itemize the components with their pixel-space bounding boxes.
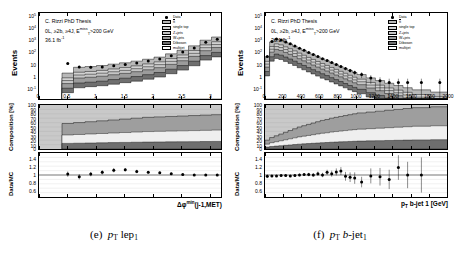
data-point	[147, 60, 150, 63]
data-point	[388, 81, 391, 84]
x-tick-label: 2.5	[178, 93, 185, 99]
caption-f: (f) pT b-jet1	[228, 228, 452, 242]
legend-entry-zjets: Z+jets	[162, 31, 218, 36]
ratio-point	[135, 170, 138, 173]
x-tick	[411, 153, 412, 156]
legend-swatch-icon	[162, 46, 171, 50]
x-tick	[320, 194, 321, 197]
legend-swatch-icon	[162, 20, 171, 24]
data-point	[353, 71, 356, 74]
x-tick-label: 2	[152, 93, 155, 99]
data-point	[124, 63, 127, 66]
x-tick-label: 600	[315, 93, 323, 99]
ratio-panel-left	[38, 152, 222, 198]
data-point	[406, 81, 409, 84]
y-ticklabels-composition-left: 100 90 80 70 60 50 40 30 20 10 0	[2, 104, 36, 150]
caption-e: (e) pT lep1	[2, 228, 226, 242]
x-tick	[283, 194, 284, 197]
legend-entry-tt: tt	[162, 20, 218, 25]
y-ticklabels-ratio-right: 1.4 1.2 1 0.8 0.6	[228, 152, 262, 198]
ratio-point	[158, 171, 161, 174]
x-tick	[356, 13, 357, 16]
x-tick	[181, 194, 182, 197]
ratio-point	[353, 177, 356, 180]
annotation-selection-right: 0L, ≥2b, ≥4J, EmissT>200 GeV	[271, 27, 339, 36]
x-tick	[153, 105, 154, 108]
x-tick-label: 0	[263, 93, 266, 99]
x-tick	[210, 146, 211, 149]
x-tick	[96, 13, 97, 16]
x-ticklabels-main-left: 00.511.522.53	[38, 93, 222, 102]
legend-entry-zjets: Z+jets	[388, 31, 444, 36]
x-tick	[392, 153, 393, 156]
x-tick	[374, 13, 375, 16]
legend-label: tt	[399, 20, 401, 25]
legend-label: Data	[173, 15, 181, 20]
ratio-point	[293, 174, 296, 177]
ratio-point	[124, 168, 127, 171]
x-tick	[67, 146, 68, 149]
legend-marker-data-icon	[388, 15, 397, 19]
ratio-point	[266, 175, 269, 178]
legend-entry-diboson: Diboson	[162, 41, 218, 46]
legend-label: Diboson	[399, 41, 412, 46]
x-tick	[301, 13, 302, 16]
data-point	[339, 65, 342, 68]
legend-label: W+jets	[173, 36, 184, 41]
ratio-point	[316, 172, 319, 175]
data-point	[66, 62, 69, 65]
ratio-point	[193, 174, 196, 177]
composition-svg-left	[39, 105, 221, 149]
x-tick	[124, 194, 125, 197]
x-tick-label: 200	[278, 93, 286, 99]
x-tick	[210, 105, 211, 108]
x-tick-label: 0.5	[63, 93, 70, 99]
x-tick	[411, 194, 412, 197]
x-tick-label: 1	[94, 93, 97, 99]
x-axis-title-left: Δφmin(j-1,MET)	[177, 200, 222, 208]
data-point	[326, 59, 329, 62]
x-tick	[265, 194, 266, 197]
x-axis-title-right: pT b-jet 1 [GeV]	[401, 200, 448, 209]
data-point	[360, 73, 363, 76]
data-point	[135, 61, 138, 64]
ratio-point	[335, 170, 338, 173]
ratio-point	[216, 174, 219, 177]
x-tick	[392, 146, 393, 149]
ratio-point	[284, 174, 287, 177]
ratio-point	[101, 171, 104, 174]
x-tick	[320, 105, 321, 108]
legend-swatch-icon	[162, 36, 171, 40]
ratio-point	[360, 181, 363, 184]
x-tick	[67, 105, 68, 108]
x-tick	[39, 13, 40, 16]
data-point	[349, 69, 352, 72]
x-tick-label: 800	[333, 93, 341, 99]
x-tick	[374, 153, 375, 156]
data-point	[158, 57, 161, 60]
x-tick	[124, 13, 125, 16]
x-tick	[181, 146, 182, 149]
legend-label: single top	[399, 25, 414, 30]
x-tick	[411, 146, 412, 149]
x-tick	[181, 153, 182, 156]
x-tick	[338, 194, 339, 197]
y-ticklabels-main-left: 105 104 103 102 10 1 10-1	[2, 12, 36, 100]
x-tick	[153, 146, 154, 149]
legend-right: Datattsingle topZ+jetsW+jetsDibosonmulti…	[388, 15, 444, 51]
x-tick	[429, 146, 430, 149]
ratio-point	[326, 171, 329, 174]
ratio-point	[66, 173, 69, 176]
ratio-point	[170, 172, 173, 175]
ratio-point	[388, 178, 391, 181]
x-tick	[124, 105, 125, 108]
legend-label: Z+jets	[173, 31, 183, 36]
data-point	[335, 63, 338, 66]
x-tick	[210, 153, 211, 156]
data-point	[438, 81, 441, 84]
legend-entry-tt: tt	[388, 20, 444, 25]
legend-swatch-icon	[388, 26, 397, 30]
x-tick	[356, 153, 357, 156]
data-point	[344, 67, 347, 70]
data-point	[321, 57, 324, 60]
